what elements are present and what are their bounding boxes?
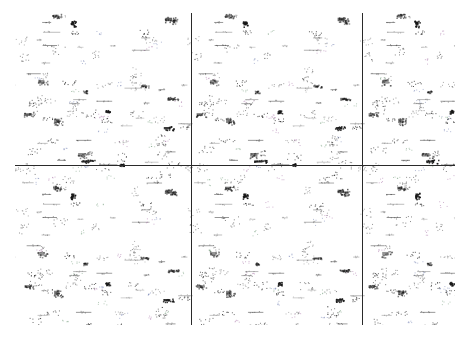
grid-line-vertical xyxy=(191,13,192,325)
grid-line-vertical xyxy=(362,13,363,325)
speckle-canvas xyxy=(0,0,467,338)
noise-texture-image xyxy=(0,0,467,338)
grid-line-horizontal xyxy=(15,165,455,166)
